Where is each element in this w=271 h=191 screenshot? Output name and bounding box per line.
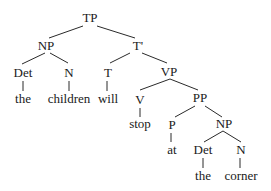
- edge-pp-p: [175, 106, 195, 117]
- node-det: Det: [14, 65, 33, 80]
- syntax-tree: TP NP T' Det N T VP V PP P NP Det N the …: [0, 0, 271, 191]
- edge-tbar-t: [110, 53, 130, 63]
- edge-np-det: [22, 53, 45, 64]
- edge-vp-pp: [170, 79, 198, 90]
- edge-vp-v: [140, 79, 170, 90]
- node-n2: N: [236, 142, 246, 157]
- node-n: N: [64, 65, 74, 80]
- word-corner: corner: [224, 168, 258, 183]
- edge-np-n: [50, 53, 68, 63]
- edge-np-det2: [204, 131, 223, 142]
- node-det2: Det: [194, 142, 213, 157]
- word-will: will: [98, 91, 119, 106]
- word-children: children: [48, 91, 91, 106]
- node-vp: VP: [161, 64, 178, 79]
- node-pp: PP: [193, 90, 207, 105]
- word-stop: stop: [129, 116, 151, 131]
- node-p: P: [168, 117, 175, 132]
- word-the-2: the: [195, 168, 211, 183]
- word-the: the: [15, 91, 31, 106]
- edge-tbar-vp: [142, 53, 167, 63]
- node-tp: TP: [82, 10, 97, 25]
- edge-np-n2: [223, 131, 241, 142]
- tree-nodes: TP NP T' Det N T VP V PP P NP Det N: [14, 10, 247, 157]
- node-t: T: [104, 65, 112, 80]
- node-tbar: T': [133, 38, 143, 53]
- node-v: V: [135, 92, 145, 107]
- edge-tp-np: [49, 26, 83, 38]
- word-at: at: [167, 142, 177, 157]
- node-np2: NP: [216, 116, 233, 131]
- node-np: NP: [38, 38, 55, 53]
- edge-tp-tbar: [97, 26, 135, 38]
